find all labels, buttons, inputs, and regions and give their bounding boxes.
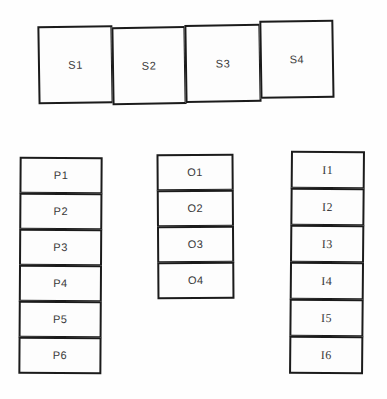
- cell-s1[interactable]: S1: [37, 25, 113, 104]
- group-o-column: O1 O2 O3 O4: [156, 154, 235, 303]
- cell-i3[interactable]: I3: [290, 225, 364, 264]
- cell-i5[interactable]: I5: [289, 299, 363, 338]
- cell-label: P2: [54, 206, 69, 217]
- group-i-column: I1 I2 I3 I4 I5 I6: [289, 151, 366, 378]
- cell-label: P4: [53, 278, 68, 289]
- cell-label: I6: [321, 349, 332, 361]
- cell-label: P5: [53, 314, 68, 325]
- cell-label: I1: [322, 164, 333, 176]
- cell-p6[interactable]: P6: [18, 337, 101, 375]
- cell-i2[interactable]: I2: [290, 188, 364, 227]
- cell-label: P3: [53, 242, 68, 253]
- cell-label: S3: [216, 58, 231, 69]
- cell-label: I3: [322, 238, 333, 250]
- cell-o4[interactable]: O4: [157, 262, 234, 300]
- cell-label: I4: [321, 275, 332, 287]
- cell-label: I5: [321, 312, 332, 324]
- cell-label: S4: [290, 54, 305, 65]
- cell-label: P6: [53, 350, 68, 361]
- group-p-column: P1 P2 P3 P4 P5 P6: [18, 157, 103, 378]
- cell-s3[interactable]: S3: [184, 24, 261, 103]
- group-s-row: S1 S2 S3 S4: [37, 22, 334, 111]
- cell-o1[interactable]: O1: [156, 154, 233, 192]
- cell-label: O2: [187, 203, 203, 214]
- cell-p2[interactable]: P2: [19, 193, 102, 231]
- cell-i1[interactable]: I1: [291, 151, 365, 190]
- cell-s2[interactable]: S2: [111, 26, 186, 105]
- diagram-canvas: S1 S2 S3 S4 P1 P2 P3 P4 P5 P6: [0, 0, 387, 399]
- cell-s4[interactable]: S4: [259, 20, 334, 99]
- cell-i6[interactable]: I6: [289, 336, 363, 375]
- cell-o2[interactable]: O2: [157, 190, 234, 228]
- cell-i4[interactable]: I4: [290, 262, 364, 301]
- cell-p3[interactable]: P3: [19, 229, 102, 267]
- cell-label: P1: [54, 170, 69, 181]
- cell-p4[interactable]: P4: [19, 265, 102, 303]
- cell-o3[interactable]: O3: [157, 226, 234, 264]
- cell-p5[interactable]: P5: [19, 301, 102, 339]
- cell-label: S2: [142, 60, 157, 71]
- cell-label: O1: [187, 167, 203, 178]
- cell-label: O4: [188, 275, 204, 286]
- cell-p1[interactable]: P1: [19, 157, 102, 195]
- cell-label: S1: [68, 59, 83, 70]
- cell-label: I2: [322, 201, 333, 213]
- cell-label: O3: [188, 239, 204, 250]
